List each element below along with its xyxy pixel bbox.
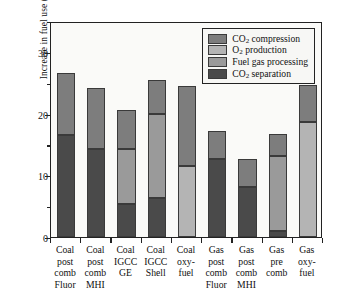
x-tick-label: Gasprecomb xyxy=(262,244,292,279)
x-tick-label: CoalpostcombFluor xyxy=(50,244,80,290)
x-tick-mark xyxy=(110,238,111,243)
bar-stack xyxy=(57,21,75,237)
x-tick-mark xyxy=(50,238,51,243)
legend-label: O2 production xyxy=(232,44,286,56)
chart-legend: CO2 compressionO2 productionFuel gas pro… xyxy=(202,28,315,84)
x-tick-label: Gasoxy-fuel xyxy=(292,244,322,279)
y-tick-label: 20 xyxy=(0,109,48,120)
bar-segment-co2-compression xyxy=(299,85,317,122)
bar-segment-co2-separation xyxy=(57,135,75,237)
y-tick-label: 30 xyxy=(0,47,48,58)
bar-stack xyxy=(178,21,196,237)
bar-stack xyxy=(87,21,105,237)
x-tick-label: GaspostcombMHI xyxy=(231,244,261,290)
bar-segment-co2-compression xyxy=(57,73,75,135)
x-tick-mark xyxy=(292,238,293,243)
bar-stack xyxy=(117,21,135,237)
y-tick-label: 10 xyxy=(0,171,48,182)
bar-segment-o2-production xyxy=(299,122,317,237)
legend-swatch xyxy=(208,57,227,67)
bar-segment-co2-compression xyxy=(238,159,256,187)
x-tick-label: Coaloxy-fuel xyxy=(171,244,201,279)
legend-label: CO2 separation xyxy=(232,68,291,80)
plot-area: CO2 compressionO2 productionFuel gas pro… xyxy=(50,22,322,238)
x-tick-mark xyxy=(201,238,202,243)
bar-segment-co2-compression xyxy=(87,88,105,149)
x-tick-mark xyxy=(231,238,232,243)
bar-segment-co2-compression xyxy=(269,134,287,156)
legend-swatch xyxy=(208,45,227,55)
bar-segment-fuel-gas-processing xyxy=(269,156,287,231)
bar-stack xyxy=(148,21,166,237)
legend-label: CO2 compression xyxy=(232,33,300,45)
bar-segment-co2-separation xyxy=(117,204,135,237)
legend-item: Fuel gas processing xyxy=(208,56,308,68)
bar-segment-o2-production xyxy=(178,166,196,237)
x-tick-mark xyxy=(322,238,323,243)
bar-segment-co2-compression xyxy=(208,131,226,159)
bar-segment-co2-separation xyxy=(238,187,256,237)
x-tick-mark xyxy=(262,238,263,243)
x-tick-mark xyxy=(141,238,142,243)
y-tick-label: 0 xyxy=(0,233,48,244)
bar-segment-co2-separation xyxy=(269,231,287,237)
bar-segment-co2-separation xyxy=(87,149,105,237)
bar-segment-co2-compression xyxy=(117,110,135,149)
x-tick-label: GaspostcombFluor xyxy=(201,244,231,290)
x-tick-mark xyxy=(80,238,81,243)
bar-segment-co2-compression xyxy=(148,80,166,114)
x-tick-label: CoalIGCCShell xyxy=(141,244,171,279)
x-tick-mark xyxy=(171,238,172,243)
bar-segment-fuel-gas-processing xyxy=(117,149,135,205)
legend-item: O2 production xyxy=(208,45,308,57)
bar-segment-co2-separation xyxy=(148,198,166,237)
bar-segment-co2-separation xyxy=(208,159,226,237)
x-tick-label: CoalIGCCGE xyxy=(110,244,140,279)
legend-item: CO2 compression xyxy=(208,33,308,45)
bar-segment-fuel-gas-processing xyxy=(148,114,166,199)
legend-label: Fuel gas processing xyxy=(232,56,308,67)
chart-figure: Increase in fuel use (%) 0102030 CO2 com… xyxy=(0,0,338,301)
bar-segment-co2-compression xyxy=(178,86,196,166)
legend-swatch xyxy=(208,34,227,44)
legend-item: CO2 separation xyxy=(208,68,308,80)
legend-swatch xyxy=(208,69,227,79)
x-tick-label: CoalpostcombMHI xyxy=(80,244,110,290)
